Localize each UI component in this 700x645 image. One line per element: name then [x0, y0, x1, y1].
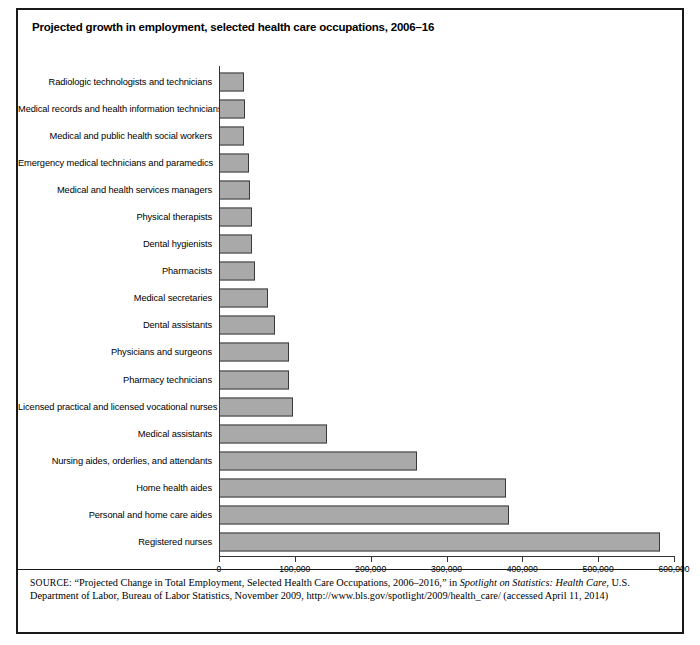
axis-tick — [674, 556, 675, 562]
bar-track — [219, 176, 682, 203]
chart-row: Dental hygienists — [18, 231, 682, 258]
source-note: SOURCE: “Projected Change in Total Emplo… — [30, 576, 670, 602]
chart-row: Dental assistants — [18, 312, 682, 339]
chart-row: Home health aides — [18, 474, 682, 501]
bar — [219, 316, 275, 335]
chart-row: Medical records and health information t… — [18, 95, 682, 122]
bar-track — [219, 258, 682, 285]
category-label: Medical assistants — [18, 429, 219, 439]
axis-tick — [295, 556, 296, 562]
bar-track — [219, 339, 682, 366]
bar — [219, 262, 255, 281]
axis-tick — [219, 556, 220, 562]
category-label: Physical therapists — [18, 212, 219, 222]
chart-row: Personal and home care aides — [18, 502, 682, 529]
bar — [219, 289, 268, 308]
bar — [219, 235, 252, 254]
category-label: Radiologic technologists and technicians — [18, 77, 219, 87]
chart-row: Nursing aides, orderlies, and attendants — [18, 447, 682, 474]
category-label: Licensed practical and licensed vocation… — [18, 402, 219, 412]
bar — [219, 180, 250, 199]
category-label: Personal and home care aides — [18, 510, 219, 520]
category-label: Physicians and surgeons — [18, 347, 219, 357]
chart-row: Medical and public health social workers — [18, 122, 682, 149]
bar-track — [219, 393, 682, 420]
chart-row: Pharmacists — [18, 258, 682, 285]
category-label: Dental assistants — [18, 320, 219, 330]
bar-track — [219, 312, 682, 339]
y-axis-line — [219, 66, 220, 557]
bar-track — [219, 366, 682, 393]
bar — [219, 370, 289, 389]
bar — [219, 397, 293, 416]
chart-row: Pharmacy technicians — [18, 366, 682, 393]
category-label: Dental hygienists — [18, 239, 219, 249]
category-label: Pharmacy technicians — [18, 375, 219, 385]
source-divider — [18, 569, 682, 570]
figure-frame: Projected growth in employment, selected… — [16, 8, 684, 634]
category-label: Pharmacists — [18, 266, 219, 276]
axis-tick — [447, 556, 448, 562]
bar-track — [219, 502, 682, 529]
bar — [219, 343, 289, 362]
category-label: Medical secretaries — [18, 293, 219, 303]
source-text-part1: “Projected Change in Total Employment, S… — [75, 577, 460, 588]
bar — [219, 451, 417, 470]
bar — [219, 126, 244, 145]
source-text-italic: Spotlight on Statistics: Health Care — [460, 577, 607, 588]
category-label: Home health aides — [18, 483, 219, 493]
bar-track — [219, 447, 682, 474]
bar-track — [219, 474, 682, 501]
bar-track — [219, 231, 682, 258]
chart-row: Emergency medical technicians and parame… — [18, 149, 682, 176]
chart-row: Licensed practical and licensed vocation… — [18, 393, 682, 420]
bar — [219, 424, 327, 443]
bar-track — [219, 95, 682, 122]
axis-tick — [598, 556, 599, 562]
chart-row: Medical and health services managers — [18, 176, 682, 203]
bar-track — [219, 203, 682, 230]
bar-track — [219, 285, 682, 312]
bar-track — [219, 420, 682, 447]
page-title: Projected growth in employment, selected… — [32, 21, 434, 33]
bar — [219, 506, 509, 525]
category-label: Medical records and health information t… — [18, 104, 219, 114]
bar-track — [219, 149, 682, 176]
chart-row: Medical assistants — [18, 420, 682, 447]
chart-plot-area: Radiologic technologists and technicians… — [18, 58, 682, 598]
bar — [219, 99, 245, 118]
chart-row: Physicians and surgeons — [18, 339, 682, 366]
chart-row: Physical therapists — [18, 203, 682, 230]
axis-tick — [371, 556, 372, 562]
bar-rows-container: Radiologic technologists and technicians… — [18, 68, 682, 556]
bar-track — [219, 68, 682, 95]
bar — [219, 478, 506, 497]
bar — [219, 208, 252, 227]
bar-track — [219, 529, 682, 556]
category-label: Medical and public health social workers — [18, 131, 219, 141]
chart-row: Radiologic technologists and technicians — [18, 68, 682, 95]
chart-row: Medical secretaries — [18, 285, 682, 312]
bar — [219, 153, 249, 172]
category-label: Medical and health services managers — [18, 185, 219, 195]
chart-row: Registered nurses — [18, 529, 682, 556]
bar — [219, 72, 244, 91]
source-label: SOURCE: — [30, 577, 72, 588]
bar-track — [219, 122, 682, 149]
axis-tick — [522, 556, 523, 562]
category-label: Registered nurses — [18, 537, 219, 547]
bar — [219, 533, 660, 552]
category-label: Nursing aides, orderlies, and attendants — [18, 456, 219, 466]
category-label: Emergency medical technicians and parame… — [18, 158, 219, 168]
